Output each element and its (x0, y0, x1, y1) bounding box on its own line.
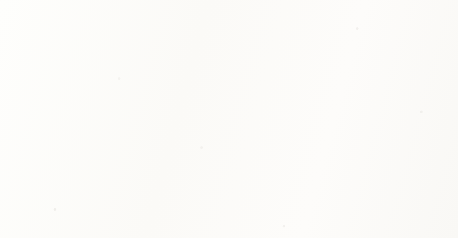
bar-2006[interactable] (400, 63, 428, 202)
bar-slot (200, 40, 261, 202)
x-axis-tick-label: 2005 (322, 206, 383, 218)
y-axis-tick-mark (76, 148, 81, 149)
chart-title-line-2: Fall 2001 to Fall 2006 (Thousands of Dol… (0, 17, 458, 32)
x-axis-tick-label: 2001 (77, 206, 138, 218)
x-axis-tick-label: 2003 (200, 206, 261, 218)
bar-2003[interactable] (216, 87, 244, 202)
bar-2004[interactable] (278, 80, 306, 202)
y-axis-tick-label: $200,000 (21, 170, 64, 182)
y-axis-tick-label: $500,000 (21, 88, 64, 100)
x-axis: 200120022003200420052006 (77, 206, 445, 226)
bar-slot (138, 40, 199, 202)
plot-area (76, 39, 446, 203)
bar-2001[interactable] (94, 98, 122, 202)
y-axis-tick-label: $400,000 (21, 115, 64, 127)
y-axis-tick-mark (76, 175, 81, 176)
bar-chart-figure: Total Operating Revenue, Expenses, and T… (0, 0, 458, 238)
y-axis-tick-label: $600,000 (21, 60, 64, 72)
bar-slot (261, 40, 322, 202)
y-axis-tick-label: $700,000 (21, 33, 64, 45)
y-axis-tick-mark (76, 66, 81, 67)
y-axis: $700,000$600,000$500,000$400,000$300,000… (0, 39, 70, 203)
y-axis-tick-mark (76, 93, 81, 94)
y-axis-tick-mark (76, 121, 81, 122)
x-axis-tick-label: 2002 (138, 206, 199, 218)
bar-slot (322, 40, 383, 202)
chart-title: Total Operating Revenue, Expenses, and T… (0, 2, 458, 32)
bar-slot (384, 40, 445, 202)
bar-slot (77, 40, 138, 202)
x-axis-tick-label: 2004 (261, 206, 322, 218)
bar-2005[interactable] (339, 72, 367, 202)
chart-title-line-1: Total Operating Revenue, Expenses, and T… (0, 2, 458, 17)
bar-2002[interactable] (155, 96, 183, 202)
y-axis-tick-label: $100,000 (21, 197, 64, 209)
y-axis-tick-label: $300,000 (21, 142, 64, 154)
x-axis-tick-label: 2006 (384, 206, 445, 218)
bars-layer (77, 40, 445, 202)
